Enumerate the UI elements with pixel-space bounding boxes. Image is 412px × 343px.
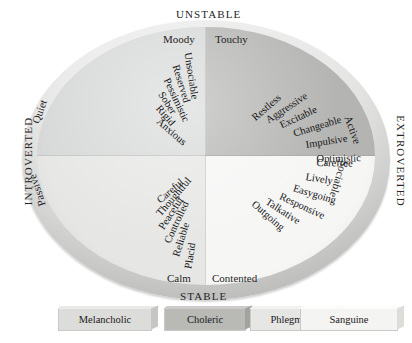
trait-carefree: Carefree [316,157,352,169]
cardinal-trait-calm: Calm [167,272,191,284]
eysenck-circumplex-diagram: UNSTABLE STABLE INTROVERTED EXTROVERTED … [0,0,412,343]
legend-item-sanguine[interactable]: Sanguine [300,308,398,331]
axis-pole-unstable: UNSTABLE [176,8,241,20]
legend-chip-top-face [57,306,159,309]
legend-item-melancholic[interactable]: Melancholic [58,308,152,331]
legend-item-choleric[interactable]: Choleric [164,308,246,331]
legend-label-sanguine: Sanguine [329,314,368,325]
temperament-legend: Melancholic Choleric Phlegmatic Sanguine [0,300,412,343]
cardinal-trait-touchy: Touchy [215,33,248,45]
axis-pole-extroverted: EXTROVERTED [395,115,407,207]
cardinal-trait-moody: Moody [163,33,195,45]
vertical-axis-line [205,27,206,285]
cardinal-trait-contented: Contented [212,272,257,284]
legend-chip-side-face [397,306,404,330]
legend-chip-top-face [299,306,405,309]
legend-label-melancholic: Melancholic [79,314,131,325]
legend-chip-top-face [163,306,253,309]
legend-chip-side-face [151,306,158,330]
legend-label-choleric: Choleric [187,314,223,325]
